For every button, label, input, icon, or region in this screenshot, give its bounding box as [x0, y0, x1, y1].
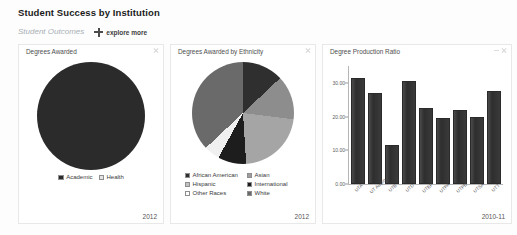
panel-period: 2012 [295, 213, 309, 220]
legend-swatch [99, 175, 105, 181]
pie-graphic [192, 62, 294, 164]
plot-area [348, 66, 503, 185]
bar[interactable] [351, 78, 365, 184]
legend-label: African American [193, 172, 238, 179]
close-icon[interactable] [501, 48, 506, 53]
bar-column[interactable] [436, 66, 450, 184]
pie-chart-ethnicity [171, 62, 315, 164]
y-axis-tick-label: 10.00 [332, 147, 345, 153]
panel-title: Degrees Awarded by Ethnicity [178, 48, 263, 56]
close-icon[interactable] [153, 48, 158, 53]
pie-graphic [37, 62, 145, 170]
explore-more-button[interactable]: explore more [94, 28, 147, 37]
legend-label: Asian [255, 172, 270, 179]
legend-label: Academic [66, 174, 92, 181]
y-axis-tick-label: 20.00 [332, 114, 345, 120]
legend-label: Other Races [193, 190, 227, 197]
bar-series [351, 66, 501, 184]
page-title: Student Success by Institution [18, 7, 517, 19]
legend-label: International [255, 181, 288, 188]
legend-item[interactable]: International [247, 181, 302, 188]
panel-title: Degrees Awarded [26, 48, 77, 56]
bar-column[interactable] [470, 66, 484, 184]
bar[interactable] [419, 108, 433, 184]
bar[interactable] [402, 81, 416, 184]
panel-header: Degrees Awarded [19, 45, 163, 60]
y-axis: 30.0020.0010.000.00 [327, 66, 347, 184]
x-axis: UTAUT AustinUTBUTDUTEPUTPAUTPBUTSAUTT [350, 186, 501, 192]
bar[interactable] [453, 110, 467, 184]
bar[interactable] [487, 91, 501, 184]
panel-row: Degrees Awarded Academic Health 2012 [18, 44, 512, 224]
panel-degrees-by-ethnicity[interactable]: Degrees Awarded by Ethnicity African Ame… [170, 44, 316, 224]
legend-swatch [247, 173, 253, 179]
bar-chart-degree-production-ratio: 30.0020.0010.000.00 UTAUT AustinUTBUTDUT… [327, 66, 505, 200]
pie-chart-degrees-awarded [19, 62, 163, 170]
panel-degree-production-ratio[interactable]: Degree Production Ratio 30.0020.0010.000… [322, 44, 512, 224]
legend-swatch [247, 182, 253, 188]
bar-column[interactable] [419, 66, 433, 184]
legend-item[interactable]: Academic [58, 174, 92, 181]
legend-ethnicity: African American Asian Hispanic Internat… [171, 172, 315, 197]
bar-column[interactable] [351, 66, 365, 184]
legend-swatch [58, 175, 64, 181]
legend-item[interactable]: Asian [247, 172, 302, 179]
legend-item[interactable]: Hispanic [185, 181, 243, 188]
legend-item[interactable]: White [247, 190, 302, 197]
minimize-icon[interactable] [494, 48, 499, 53]
bar-column[interactable] [487, 66, 501, 184]
legend-item[interactable]: Health [99, 174, 124, 181]
legend-degrees-awarded: Academic Health [19, 174, 163, 181]
legend-swatch [185, 173, 191, 179]
bar[interactable] [368, 93, 382, 184]
subheader-label: Student Outcomes [18, 27, 84, 37]
legend-label: Health [107, 174, 124, 181]
bar[interactable] [436, 118, 450, 184]
plus-icon [94, 28, 103, 37]
legend-item[interactable]: Other Races [185, 190, 243, 197]
bar-column[interactable] [402, 66, 416, 184]
legend-swatch [185, 191, 191, 197]
panel-period: 2010-11 [482, 213, 505, 220]
y-axis-tick-label: 30.00 [332, 80, 345, 86]
explore-more-label: explore more [106, 29, 147, 36]
y-axis-tick-label: 0.00 [335, 181, 345, 187]
page-header: Student Success by Institution Student O… [0, 0, 517, 38]
panel-tools[interactable] [494, 48, 506, 53]
panel-tools[interactable] [153, 48, 158, 53]
bar-column[interactable] [453, 66, 467, 184]
panel-title: Degree Production Ratio [330, 48, 400, 56]
panel-header: Degree Production Ratio [323, 45, 511, 60]
dashboard-root: Student Success by Institution Student O… [0, 0, 517, 235]
panel-degrees-awarded[interactable]: Degrees Awarded Academic Health 2012 [18, 44, 164, 224]
legend-swatch [185, 182, 191, 188]
close-icon[interactable] [305, 48, 310, 53]
legend-label: White [255, 190, 270, 197]
panel-period: 2012 [143, 213, 157, 220]
panel-tools[interactable] [305, 48, 310, 53]
bar[interactable] [385, 145, 399, 184]
legend-label: Hispanic [193, 181, 216, 188]
legend-item[interactable]: African American [185, 172, 243, 179]
legend-swatch [247, 191, 253, 197]
panel-header: Degrees Awarded by Ethnicity [171, 45, 315, 60]
bar-column[interactable] [385, 66, 399, 184]
subheader-row: Student Outcomes explore more [18, 26, 517, 38]
bar-column[interactable] [368, 66, 382, 184]
bar[interactable] [470, 117, 484, 184]
